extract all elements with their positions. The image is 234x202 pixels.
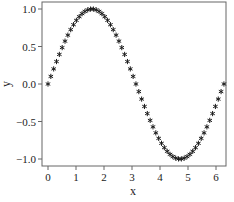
asterisk-marker — [66, 33, 71, 38]
x-tick-label: 3 — [129, 171, 135, 183]
asterisk-marker — [46, 81, 51, 86]
asterisk-marker — [105, 18, 110, 23]
asterisk-marker — [117, 39, 122, 44]
asterisk-marker — [68, 27, 73, 32]
asterisk-marker — [139, 96, 144, 101]
asterisk-marker — [71, 22, 76, 27]
y-tick-label: 1.0 — [22, 3, 36, 15]
asterisk-marker — [205, 124, 210, 129]
x-tick-label: 0 — [45, 171, 51, 183]
asterisk-marker — [162, 145, 167, 150]
asterisk-marker — [154, 130, 159, 135]
x-axis-ticks: 0123456 — [45, 166, 219, 183]
asterisk-marker — [207, 118, 212, 123]
asterisk-marker — [128, 66, 133, 71]
sine-chart: 0123456 −1.0−0.50.00.51.0 x y — [0, 0, 234, 202]
asterisk-marker — [193, 145, 198, 150]
asterisk-marker — [134, 81, 139, 86]
asterisk-marker — [199, 136, 204, 141]
y-tick-label: 0.5 — [22, 41, 36, 53]
y-axis-ticks: −1.0−0.50.00.51.0 — [16, 3, 42, 165]
x-axis-label: x — [130, 184, 136, 198]
asterisk-marker — [122, 52, 127, 57]
asterisk-marker — [131, 74, 136, 79]
asterisk-marker — [202, 130, 207, 135]
asterisk-marker — [120, 45, 125, 50]
asterisk-marker — [216, 96, 221, 101]
asterisk-marker — [49, 74, 54, 79]
asterisk-marker — [74, 18, 79, 23]
data-markers — [46, 6, 226, 161]
asterisk-marker — [219, 89, 224, 94]
asterisk-marker — [142, 104, 147, 109]
asterisk-marker — [159, 141, 164, 146]
x-tick-label: 5 — [185, 171, 191, 183]
asterisk-marker — [213, 104, 218, 109]
asterisk-marker — [151, 124, 156, 129]
x-tick-label: 1 — [73, 171, 79, 183]
asterisk-marker — [210, 111, 215, 116]
x-tick-label: 4 — [157, 171, 163, 183]
asterisk-marker — [114, 33, 119, 38]
y-tick-label: −1.0 — [16, 153, 36, 165]
x-tick-label: 6 — [213, 171, 219, 183]
asterisk-marker — [148, 118, 153, 123]
asterisk-marker — [63, 39, 68, 44]
asterisk-marker — [57, 52, 62, 57]
asterisk-marker — [156, 136, 161, 141]
asterisk-marker — [108, 22, 113, 27]
asterisk-marker — [145, 111, 150, 116]
asterisk-marker — [111, 27, 116, 32]
x-tick-label: 2 — [101, 171, 107, 183]
asterisk-marker — [60, 45, 65, 50]
asterisk-marker — [196, 141, 201, 146]
y-tick-label: 0.0 — [22, 78, 36, 90]
asterisk-marker — [125, 59, 130, 64]
y-axis-label: y — [0, 81, 13, 87]
asterisk-marker — [137, 89, 142, 94]
y-tick-label: −0.5 — [16, 116, 36, 128]
asterisk-marker — [54, 59, 59, 64]
asterisk-marker — [51, 66, 56, 71]
